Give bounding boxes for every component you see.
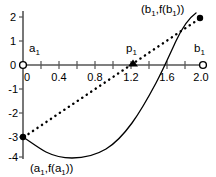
x-label-12: 1.2 bbox=[123, 71, 138, 83]
fa1-filled-dot bbox=[20, 134, 26, 140]
fa1-open: (a bbox=[30, 162, 41, 174]
fb1-close: )) bbox=[177, 3, 185, 15]
y-label-0: 0 bbox=[10, 59, 16, 71]
fa1-mid: ,f(a bbox=[45, 162, 62, 174]
chart-canvas: 2 1 0 -1 -2 -3 -4 0 0.4 0.8 1.2 1.6 2.0 bbox=[0, 0, 216, 177]
fb1-open: (b bbox=[141, 3, 151, 15]
a1-open-circle bbox=[20, 62, 27, 69]
y-label-m4: -4 bbox=[8, 151, 18, 163]
y-label-m2: -2 bbox=[8, 107, 18, 119]
a1-label: a1 bbox=[29, 42, 40, 57]
p1-label: p1 bbox=[126, 42, 137, 57]
fa1-point-label: (a1,f(a1)) bbox=[30, 162, 74, 177]
y-tick-labels: 2 1 0 -1 -2 -3 -4 bbox=[8, 11, 18, 163]
y-label-m3: -3 bbox=[8, 131, 18, 143]
fb1-filled-dot bbox=[197, 15, 203, 21]
function-curve bbox=[23, 13, 196, 158]
fb1-point-label: (b1,f(b1)) bbox=[141, 3, 185, 18]
annotations-group: a1 b1 p1 (b1,f(b1)) (a1,f(a1)) bbox=[29, 3, 205, 177]
b1-label-sub: 1 bbox=[200, 48, 205, 57]
y-label-m1: -1 bbox=[8, 83, 18, 95]
a1-label-sub: 1 bbox=[35, 48, 40, 57]
x-label-08: 0.8 bbox=[87, 71, 102, 83]
x-label-0: 0 bbox=[24, 71, 30, 83]
p1-label-sub: 1 bbox=[132, 48, 137, 57]
secant-method-figure: 2 1 0 -1 -2 -3 -4 0 0.4 0.8 1.2 1.6 2.0 bbox=[0, 0, 216, 177]
y-label-2: 2 bbox=[10, 11, 16, 23]
y-label-1: 1 bbox=[10, 35, 16, 47]
fa1-close: )) bbox=[66, 162, 74, 174]
b1-label: b1 bbox=[194, 42, 205, 57]
x-tick-labels: 0 0.4 0.8 1.2 1.6 2.0 bbox=[24, 71, 209, 83]
x-label-04: 0.4 bbox=[51, 71, 66, 83]
x-label-20: 2.0 bbox=[193, 71, 208, 83]
b1-open-circle bbox=[200, 62, 207, 69]
fb1-mid: ,f(b bbox=[156, 3, 173, 15]
